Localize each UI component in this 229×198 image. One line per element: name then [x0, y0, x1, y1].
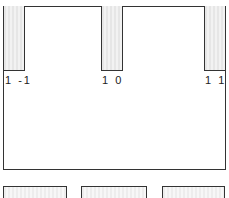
column-2: [101, 6, 123, 71]
column-1: [3, 6, 25, 71]
bottom-strip-segment-3: [162, 186, 225, 198]
lower-frame: [3, 79, 226, 170]
bottom-strip-segment-2: [81, 186, 147, 198]
column-label-1: 1 -1: [5, 74, 32, 86]
column-label-3: 1 1: [205, 74, 226, 86]
column-label-2: 1 0: [102, 74, 123, 86]
column-3: [204, 6, 226, 71]
bottom-strip-segment-1: [3, 186, 67, 198]
